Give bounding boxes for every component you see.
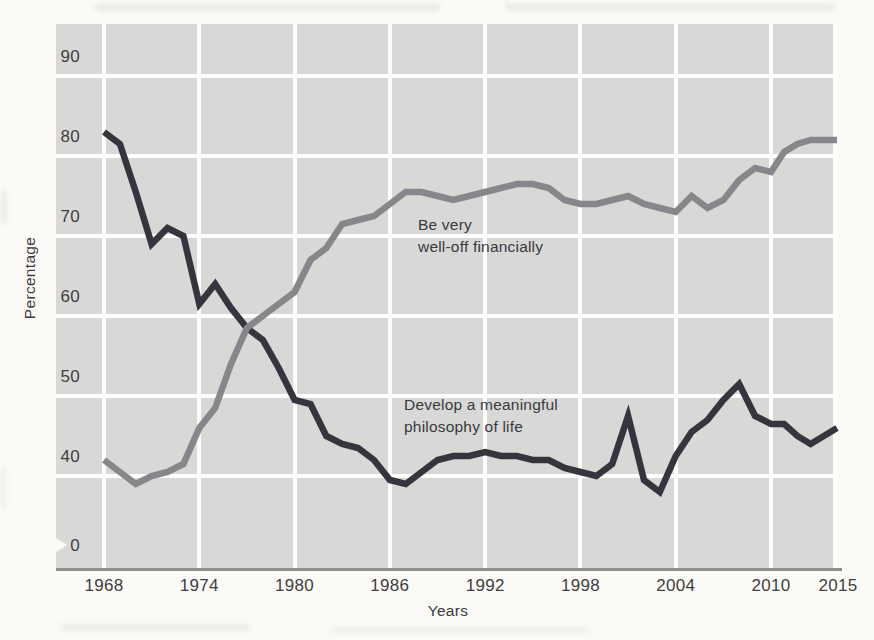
- y-tick-0: 0: [38, 536, 80, 558]
- scan-artifact: [505, 3, 835, 11]
- y-tick-60: 60: [38, 287, 80, 309]
- x-tick-2010: 2010: [739, 576, 803, 598]
- y-tick-90: 90: [38, 47, 80, 69]
- gridline-x-1980: [293, 24, 297, 568]
- y-tick-70: 70: [38, 207, 80, 229]
- scan-artifact: [1, 468, 6, 510]
- x-tick-2015: 2015: [806, 576, 870, 598]
- x-tick-1968: 1968: [72, 576, 136, 598]
- gridline-x-1974: [197, 24, 201, 568]
- gridline-x-1992: [483, 24, 487, 568]
- y-tick-80: 80: [38, 127, 80, 149]
- gridline-x-1986: [388, 24, 392, 568]
- gridline-y-90: [56, 74, 837, 78]
- x-tick-2004: 2004: [644, 576, 708, 598]
- y-tick-40: 40: [38, 447, 80, 469]
- annotation-financial-series-label: Be very well-off financially: [418, 214, 543, 258]
- scan-artifact: [95, 4, 440, 11]
- y-tick-50: 50: [38, 367, 80, 389]
- scan-artifact: [330, 627, 590, 633]
- gridline-y-60: [56, 314, 837, 318]
- y-axis-title: Percentage: [21, 178, 39, 378]
- scan-artifact: [60, 624, 250, 631]
- gridline-y-80: [56, 154, 837, 158]
- gridline-x-1998: [578, 24, 582, 568]
- x-tick-1986: 1986: [358, 576, 422, 598]
- gridline-y-40: [56, 474, 837, 478]
- survey-line-chart-figure: Develop a meaningful philosophy of life …: [0, 0, 874, 640]
- x-tick-1998: 1998: [548, 576, 612, 598]
- x-tick-1992: 1992: [453, 576, 517, 598]
- scan-artifact: [1, 190, 7, 224]
- x-axis-title: Years: [398, 602, 498, 620]
- x-tick-1980: 1980: [263, 576, 327, 598]
- gridline-x-1968: [102, 24, 106, 568]
- x-tick-1974: 1974: [167, 576, 231, 598]
- annotation-philosophy-series-label: Develop a meaningful philosophy of life: [404, 394, 558, 438]
- gridline-x-2015: [833, 24, 837, 568]
- gridline-x-2010: [769, 24, 773, 568]
- x-axis-line: [56, 568, 842, 571]
- gridline-x-2004: [674, 24, 678, 568]
- plot-area: [56, 24, 837, 568]
